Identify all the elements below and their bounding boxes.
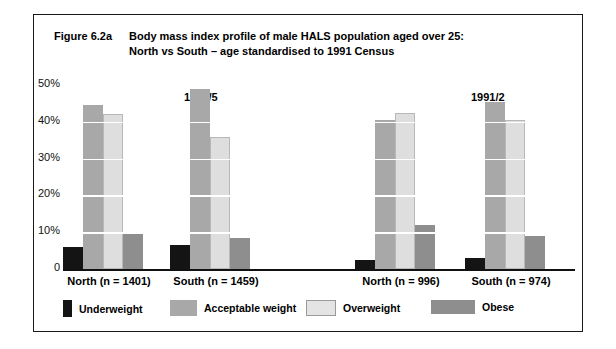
bar-underweight (170, 245, 190, 269)
legend-swatch-overweight (306, 300, 336, 316)
bar-acceptable-weight (485, 102, 505, 269)
bar-underweight (465, 258, 485, 269)
legend-swatch-acceptable-weight (170, 300, 197, 316)
y-axis-label-40: 40% (20, 114, 60, 126)
legend-item-underweight: Underweight (63, 300, 143, 317)
y-axis-label-0: 0 (20, 261, 60, 273)
x-axis-baseline (63, 269, 575, 271)
bar-underweight (63, 247, 83, 269)
legend-label-overweight: Overweight (343, 302, 400, 314)
x-axis-label-group-4: South (n = 974) (446, 275, 576, 287)
bar-underweight (355, 260, 375, 269)
legend-item-overweight: Overweight (306, 300, 400, 316)
x-axis-label-group-2: South (n = 1459) (151, 275, 281, 287)
bar-overweight (210, 137, 230, 269)
legend-label-underweight: Underweight (79, 303, 143, 315)
figure-frame: Figure 6.2aBody mass index profile of ma… (33, 14, 583, 332)
y-axis-label-10: 10% (20, 224, 60, 236)
legend-swatch-underweight (63, 300, 72, 317)
gridline (63, 159, 573, 161)
legend-item-acceptable-weight: Acceptable weight (170, 300, 296, 316)
y-axis-label-30: 30% (20, 151, 60, 163)
legend-label-obese: Obese (482, 301, 514, 313)
gridline (63, 195, 573, 197)
gridline (63, 232, 573, 234)
gridline (63, 85, 573, 87)
bar-obese (525, 236, 545, 269)
legend-label-acceptable-weight: Acceptable weight (204, 302, 296, 314)
bar-overweight (395, 113, 415, 269)
figure-page: Figure 6.2aBody mass index profile of ma… (0, 0, 616, 349)
legend-swatch-obese (431, 300, 475, 314)
bar-obese (123, 234, 143, 269)
legend-item-obese: Obese (431, 300, 514, 314)
y-axis-label-20: 20% (20, 187, 60, 199)
bar-acceptable-weight (83, 105, 103, 269)
y-axis-label-50: 50% (20, 77, 60, 89)
bar-obese (230, 238, 250, 269)
bar-acceptable-weight (190, 89, 210, 269)
gridline (63, 122, 573, 124)
chart-plot-area: 010%20%30%40%50%North (n = 1401)South (n… (34, 15, 584, 333)
bar-overweight (103, 114, 123, 269)
